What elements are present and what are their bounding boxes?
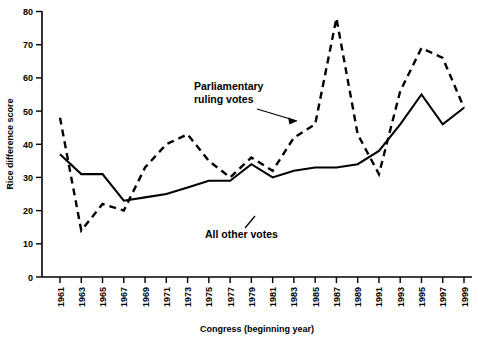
y-tick-label: 80 bbox=[23, 7, 33, 17]
y-tick-label: 30 bbox=[23, 173, 33, 183]
x-tick-label: 1987 bbox=[332, 287, 342, 307]
x-tick-label: 1989 bbox=[353, 287, 363, 307]
line-chart: 0 10 20 30 40 50 60 70 80 19611963196519… bbox=[0, 0, 478, 338]
y-axis-title: Rice difference score bbox=[5, 98, 15, 189]
x-axis-title: Congress (beginning year) bbox=[200, 324, 314, 334]
x-tick-label: 1981 bbox=[268, 287, 278, 307]
y-tick-label: 0 bbox=[28, 273, 33, 283]
x-tick-label: 1963 bbox=[77, 287, 87, 307]
x-tick-label: 1977 bbox=[226, 287, 236, 307]
y-tick-label: 70 bbox=[23, 40, 33, 50]
annotation-all-other-votes: All other votes bbox=[205, 216, 278, 240]
x-tick-label: 1969 bbox=[141, 287, 151, 307]
x-axis-ticks bbox=[60, 277, 464, 283]
x-tick-label: 1995 bbox=[417, 287, 427, 307]
annotation-leader-line bbox=[245, 216, 255, 228]
x-tick-label: 1993 bbox=[396, 287, 406, 307]
series-parliamentary-ruling-votes bbox=[60, 18, 464, 230]
x-tick-label: 1997 bbox=[438, 287, 448, 307]
annotation-line-2: ruling votes bbox=[194, 93, 254, 105]
annotation-parliamentary-ruling-votes: Parliamentary ruling votes bbox=[194, 80, 297, 125]
y-tick-label: 50 bbox=[23, 107, 33, 117]
y-axis-tick-labels: 0 10 20 30 40 50 60 70 80 bbox=[23, 7, 33, 283]
y-tick-label: 40 bbox=[23, 140, 33, 150]
x-tick-label: 1965 bbox=[98, 287, 108, 307]
y-tick-label: 10 bbox=[23, 239, 33, 249]
x-tick-label: 1975 bbox=[204, 287, 214, 307]
x-tick-label: 1971 bbox=[162, 287, 172, 307]
x-axis-tick-labels: 1961196319651967196919711973197519771979… bbox=[56, 287, 470, 307]
x-tick-label: 1979 bbox=[247, 287, 257, 307]
y-tick-label: 60 bbox=[23, 73, 33, 83]
annotation-line-1: All other votes bbox=[205, 228, 278, 240]
y-tick-label: 20 bbox=[23, 206, 33, 216]
x-tick-label: 1973 bbox=[183, 287, 193, 307]
x-tick-label: 1983 bbox=[289, 287, 299, 307]
annotation-line-1: Parliamentary bbox=[194, 80, 264, 92]
x-tick-label: 1999 bbox=[460, 287, 470, 307]
x-tick-label: 1991 bbox=[374, 287, 384, 307]
chart-figure: 0 10 20 30 40 50 60 70 80 19611963196519… bbox=[0, 0, 478, 338]
x-tick-label: 1961 bbox=[56, 287, 66, 307]
annotation-arrow-head bbox=[288, 118, 297, 125]
x-tick-label: 1985 bbox=[311, 287, 321, 307]
y-axis-ticks bbox=[36, 12, 42, 278]
x-tick-label: 1967 bbox=[119, 287, 129, 307]
